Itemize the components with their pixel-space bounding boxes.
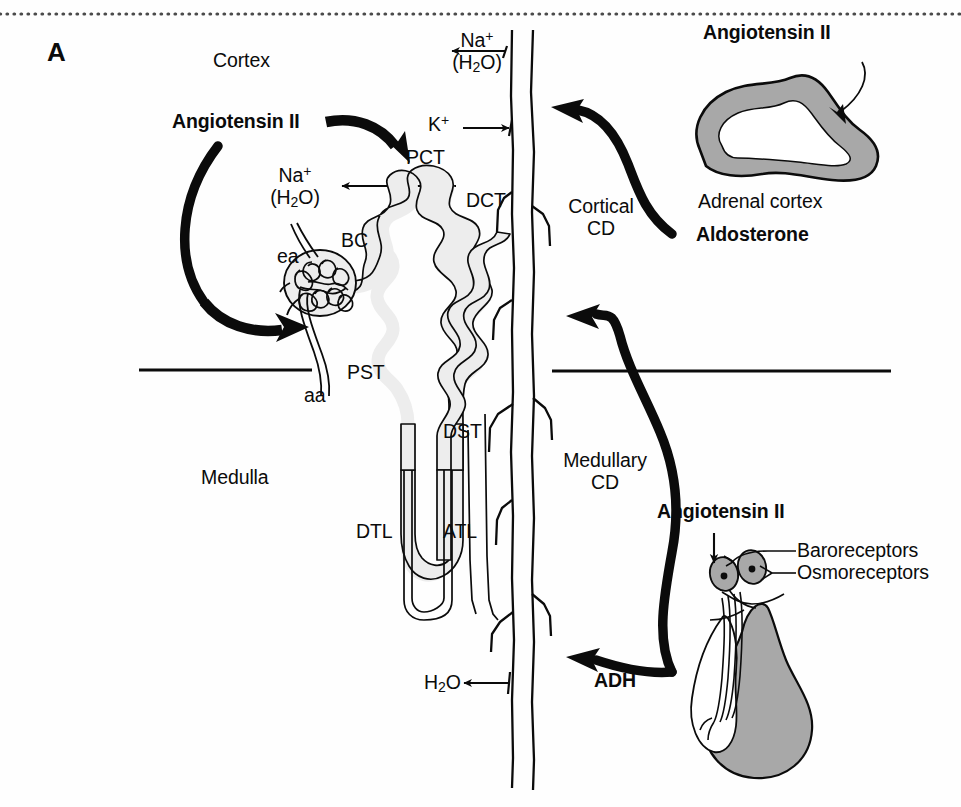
medullary-cd-line2: CD (547, 472, 663, 494)
cortical-cd-line1: Cortical (547, 196, 655, 218)
nephron-label-cortical-cd: Cortical CD (547, 196, 655, 240)
cd-potassium-influx-arrow (463, 120, 512, 136)
cortical-cd-line2: CD (547, 218, 655, 240)
osmoreceptor-nucleus (749, 566, 756, 573)
region-label-medulla: Medulla (201, 467, 269, 489)
nephron-label-medullary-cd: Medullary CD (547, 450, 663, 494)
nephron-label-dct: DCT (466, 190, 506, 212)
nephron-label-dst: DST (443, 421, 482, 443)
nephron-diagram-svg (0, 0, 961, 807)
nephron-label-pst: PST (347, 362, 385, 384)
nephron-label-atl: ATL (443, 521, 477, 543)
pituitary-illustration (691, 533, 812, 778)
hormone-label-angiotensin-ii-left: Angiotensin II (172, 111, 300, 133)
transport-label-cd-sodium: Na+ (H2O) (441, 29, 513, 76)
hormone-label-aldosterone: Aldosterone (696, 224, 809, 246)
medullary-cd-water-efflux-arrow (464, 672, 510, 694)
nephron-label-pct: PCT (406, 147, 445, 169)
medullary-cd-line1: Medullary (547, 450, 663, 472)
angiotensin-pointer-line (840, 62, 865, 112)
nephron-label-dtl: DTL (356, 521, 393, 543)
nephron-label-bc: BC (341, 230, 368, 252)
collecting-duct-branches (489, 192, 552, 652)
dtl-upper-ribbon (401, 424, 415, 470)
transport-label-cd-potassium: K+ (428, 113, 449, 136)
panel-letter: A (47, 38, 66, 67)
transport-label-pct-sodium: Na+ (H2O) (259, 164, 331, 211)
hormone-label-angiotensin-ii-pituitary: Angiotensin II (657, 501, 785, 523)
receptor-cells (707, 547, 769, 593)
transport-label-medullary-water: H2O (424, 672, 461, 696)
nephron-label-aa: aa (304, 385, 326, 407)
baroreceptor-nucleus (721, 573, 728, 580)
nephron-label-ea: ea (277, 246, 299, 268)
dst-straight-lines (468, 414, 498, 620)
region-label-cortex: Cortex (213, 50, 270, 72)
hormone-label-adh: ADH (594, 670, 636, 692)
organ-label-adrenal-cortex: Adrenal cortex (698, 191, 822, 213)
collecting-duct-tube (511, 30, 534, 790)
adrenal-cortex-illustration (696, 62, 878, 181)
angiotensin-ii-pct-arrow (326, 120, 410, 163)
organ-label-osmoreceptors: Osmoreceptors (797, 562, 929, 584)
hormone-label-angiotensin-ii-adrenal: Angiotensin II (703, 22, 831, 44)
organ-label-baroreceptors: Baroreceptors (797, 540, 918, 562)
figure-panel-a: A Cortex Medulla Angiotensin II Na+ (H2O… (0, 0, 961, 807)
thin-limb-outlines (404, 470, 452, 620)
